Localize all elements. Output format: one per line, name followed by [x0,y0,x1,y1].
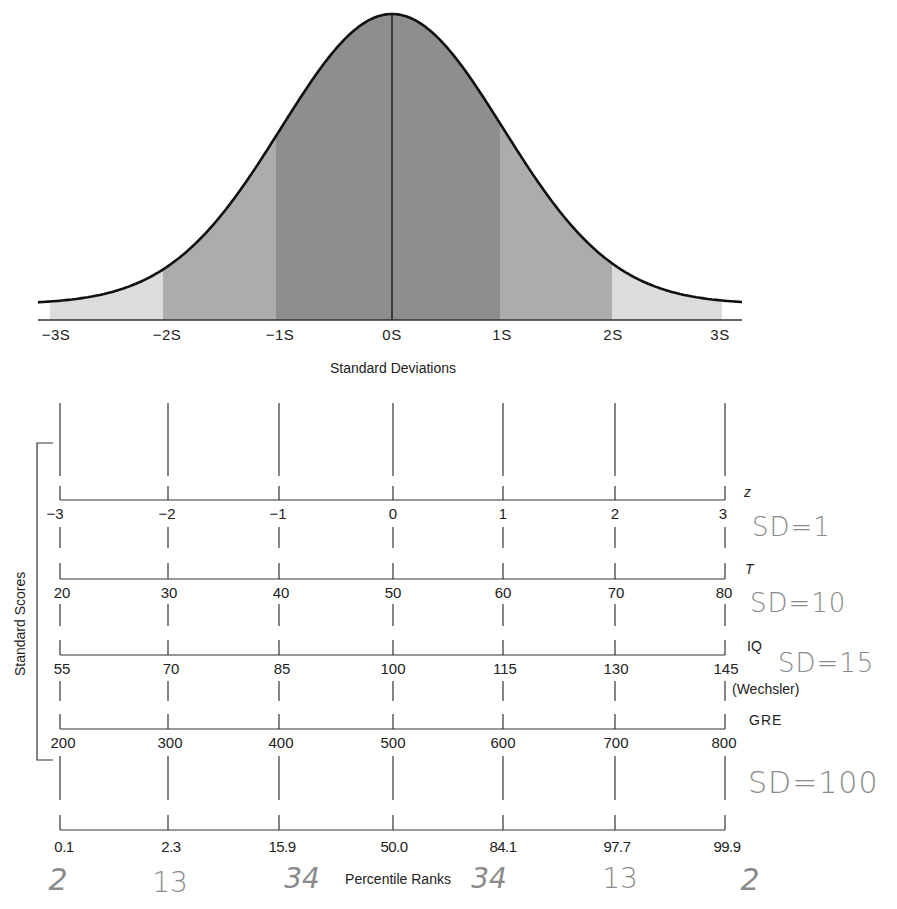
percentile-label: 50.0 [380,838,407,855]
band-medium-right [500,0,612,320]
gre-label: 600 [490,734,515,751]
gre-scale-name: GRE [749,712,782,728]
sd-label-neg2: −2S [153,326,182,343]
t-label: 40 [273,584,290,601]
gre-label: 200 [50,734,75,751]
sd-label-neg1: −1S [266,326,295,343]
z-label: 3 [719,505,727,522]
z-label: −3 [46,505,63,522]
standard-scores-bracket [37,443,53,760]
gre-sd-note: SD=100 [748,765,879,800]
iq-label: 130 [603,660,628,677]
band-percent-note: 13 [602,862,638,895]
sd-label-0: 0S [382,326,401,343]
iq-label: 85 [274,660,291,677]
sd-label-neg3: −3S [42,326,71,343]
percentile-label: 99.9 [713,838,740,855]
iq-scale-subname: (Wechsler) [732,681,799,697]
z-scale-name: z [744,484,751,500]
percentile-label: 0.1 [54,838,73,855]
iq-sd-note: SD=15 [778,648,874,678]
iq-label: 70 [163,660,180,677]
sd-label-3: 3S [710,326,729,343]
t-scale-name: T [745,561,754,577]
z-label: −2 [158,505,175,522]
t-label: 20 [54,584,71,601]
percentile-label: 2.3 [161,838,180,855]
gre-label: 400 [268,734,293,751]
iq-label: 55 [54,660,71,677]
band-light-right [612,0,722,320]
z-label: 0 [389,505,397,522]
sd-label-2: 2S [603,326,622,343]
percentile-axis-title: Percentile Ranks [345,871,451,887]
band-percent-note: 13 [152,866,188,899]
gre-label: 800 [711,734,736,751]
iq-label: 145 [713,660,738,677]
percentile-label: 84.1 [489,838,516,855]
band-medium-left [163,0,276,320]
t-label: 70 [608,584,625,601]
standard-scores-title: Standard Scores [12,572,28,676]
z-label: 2 [611,505,619,522]
band-percent-note: 34 [284,862,320,895]
band-percent-note: 2 [740,862,759,897]
z-label: 1 [499,505,507,522]
gre-label: 500 [380,734,405,751]
band-dark-center [276,0,500,320]
sd-axis-title: Standard Deviations [330,360,456,376]
t-label: 30 [161,584,178,601]
t-label: 80 [716,584,733,601]
z-label: −1 [269,505,286,522]
z-sd-note: SD=1 [752,512,831,542]
percentile-label: 15.9 [268,838,295,855]
gre-label: 700 [603,734,628,751]
iq-label: 115 [493,660,517,677]
iq-label: 100 [380,660,405,677]
percentile-label: 97.7 [603,838,630,855]
t-sd-note: SD=10 [750,588,846,618]
gre-label: 300 [157,734,182,751]
sd-label-1: 1S [492,326,511,343]
band-light-left [50,0,163,320]
iq-scale-name: IQ [747,638,762,654]
t-label: 60 [495,584,512,601]
band-percent-note: 34 [471,862,507,895]
t-label: 50 [385,584,402,601]
band-percent-note: 2 [48,862,67,897]
